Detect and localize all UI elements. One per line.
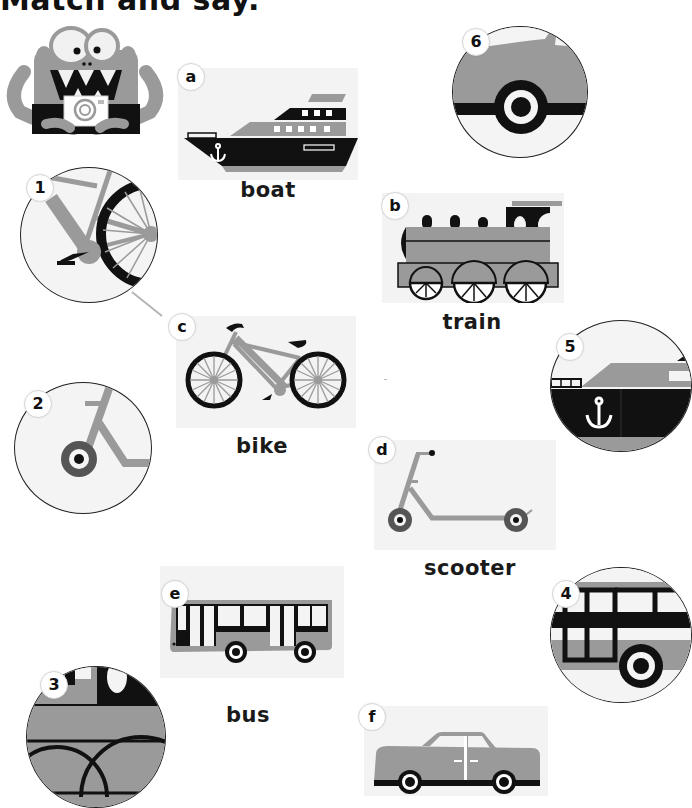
scooter-icon: [374, 440, 556, 550]
picture-card-e[interactable]: e: [160, 566, 344, 678]
page-title: Match and say.: [0, 0, 260, 17]
picture-card-c[interactable]: c: [176, 316, 356, 428]
detail-number-badge: 4: [552, 580, 580, 608]
picture-letter-badge: a: [177, 63, 205, 91]
picture-card-d[interactable]: d: [374, 440, 556, 550]
stray-dot: [384, 379, 387, 380]
detail-number-badge: 2: [24, 390, 52, 418]
picture-word-label: bike: [212, 434, 312, 458]
picture-letter-badge: f: [358, 703, 386, 731]
train-icon: [382, 193, 564, 303]
boat-icon: [178, 68, 358, 180]
picture-card-b[interactable]: b: [382, 193, 564, 303]
monster-mascot-icon: [4, 24, 166, 136]
detail-number-badge: 1: [26, 174, 54, 202]
example-match-line: [130, 290, 170, 320]
picture-word-label: boat: [218, 178, 318, 202]
bus-icon: [160, 566, 344, 678]
picture-letter-badge: d: [368, 436, 396, 464]
picture-letter-badge: e: [161, 580, 189, 608]
detail-number-badge: 5: [556, 333, 584, 361]
picture-word-label: train: [422, 310, 522, 334]
car-icon: [364, 706, 548, 796]
picture-card-f[interactable]: f: [364, 706, 548, 796]
picture-word-label: bus: [198, 703, 298, 727]
detail-number-badge: 3: [40, 671, 68, 699]
picture-word-label: scooter: [410, 556, 530, 580]
picture-letter-badge: b: [381, 192, 409, 220]
picture-card-a[interactable]: a: [178, 68, 358, 180]
bike-icon: [176, 316, 356, 428]
picture-letter-badge: c: [168, 313, 196, 341]
detail-number-badge: 6: [462, 28, 490, 56]
